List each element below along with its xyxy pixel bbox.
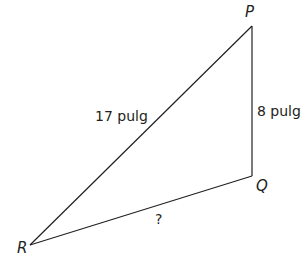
side-pr [30,26,252,245]
vertex-label-r: R [17,239,27,257]
triangle-diagram: P Q R 17 pulg 8 pulg ? [0,0,304,269]
side-label-pr: 17 pulg [95,108,148,124]
side-label-pq: 8 pulg [257,103,301,119]
side-qr [30,176,252,245]
vertex-label-q: Q [256,177,268,195]
vertex-label-p: P [245,3,255,21]
side-label-qr: ? [155,211,162,227]
